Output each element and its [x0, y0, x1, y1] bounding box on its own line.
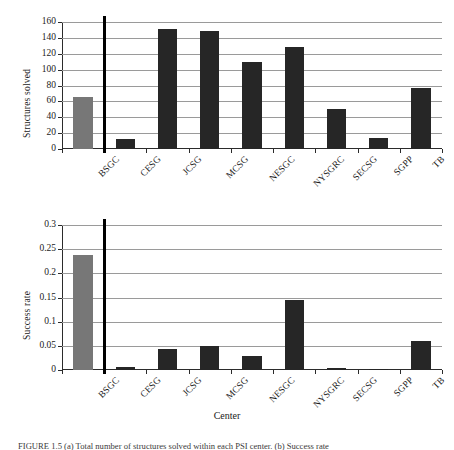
x-axis-tick	[358, 149, 359, 153]
x-axis-tick	[442, 149, 443, 153]
y-axis-tick-label: 40	[47, 113, 57, 123]
x-axis-tick	[189, 370, 190, 374]
bar-mcsg	[200, 31, 219, 149]
y-axis-tick-label: 80	[47, 81, 57, 91]
gridline	[62, 273, 442, 274]
x-axis-label-tb: TB	[430, 375, 446, 391]
chart-success-rate: Success rate 00.050.10.150.20.250.3 Cent…	[0, 205, 454, 420]
x-axis-tick	[315, 370, 316, 374]
y-axis-tick-label: 120	[42, 49, 56, 59]
figure-container: Structures solved 020406080100120140160 …	[0, 0, 454, 450]
y-axis-tick	[58, 225, 62, 226]
y-axis-tick	[58, 249, 62, 250]
gridline	[62, 54, 442, 55]
x-axis-label-sgpp: SGPP	[391, 375, 414, 398]
x-axis-tick	[315, 149, 316, 153]
bar-mcsg	[200, 346, 219, 370]
x-axis-tick	[62, 370, 63, 374]
y-axis-tick	[58, 133, 62, 134]
bar-bsgc	[73, 255, 92, 370]
bar-jcsg	[158, 349, 177, 370]
x-axis-tick	[231, 370, 232, 374]
x-axis-label-jcsg: JCSG	[180, 375, 203, 398]
x-axis-label-bsgc: BSGC	[96, 375, 121, 400]
center-group-separator	[103, 219, 106, 374]
bar-bsgc	[73, 97, 92, 149]
y-axis-tick	[58, 273, 62, 274]
bar-nesgc	[242, 356, 261, 371]
x-axis-label-sgpp: SGPP	[391, 154, 414, 177]
center-group-separator	[103, 16, 106, 153]
gridline	[62, 322, 442, 323]
y-axis-tick	[58, 70, 62, 71]
x-axis-label-cesg: CESG	[139, 154, 164, 179]
y-axis-tick-label: 140	[42, 33, 56, 43]
x-axis-tick	[146, 149, 147, 153]
x-axis-tick	[231, 149, 232, 153]
x-axis-label-nesgc: NESGC	[267, 154, 296, 183]
bar-tb	[411, 88, 430, 149]
figure-caption: FIGURE 1.5 (a) Total number of structure…	[18, 441, 446, 450]
gridline	[62, 249, 442, 250]
x-axis-tick	[442, 370, 443, 374]
x-axis-label-secsg: SECSG	[351, 154, 379, 182]
y-axis-tick-label: 0.2	[44, 269, 56, 279]
plot-area-top: 020406080100120140160	[62, 22, 442, 149]
y-axis-tick-label: 100	[42, 65, 56, 75]
y-axis-tick-label: 0.1	[44, 317, 56, 327]
y-axis-tick-label: 60	[47, 97, 57, 107]
bar-tb	[411, 341, 430, 370]
y-axis-tick	[58, 117, 62, 118]
chart-structures-solved: Structures solved 020406080100120140160 …	[0, 0, 454, 205]
x-axis-tick	[400, 370, 401, 374]
y-axis-tick	[58, 38, 62, 39]
x-axis-tick	[273, 370, 274, 374]
y-axis-title-top: Structures solved	[22, 38, 32, 138]
gridline	[62, 38, 442, 39]
x-axis-label-mcsg: MCSG	[224, 375, 250, 401]
y-axis-tick-label: 0.25	[39, 244, 56, 254]
y-axis-tick-label: 0	[51, 365, 56, 375]
x-axis-tick	[62, 149, 63, 153]
x-axis-label-nysgrc: NYSGRC	[312, 154, 347, 189]
x-axis-tick	[358, 370, 359, 374]
x-axis-label-nesgc: NESGC	[267, 375, 296, 404]
y-axis-tick	[58, 298, 62, 299]
y-axis-tick	[58, 86, 62, 87]
x-axis-label-mcsg: MCSG	[224, 154, 250, 180]
plot-area-bottom: 00.050.10.150.20.250.3	[62, 225, 442, 370]
bar-secsg	[327, 109, 346, 149]
x-axis-tick	[273, 149, 274, 153]
x-axis-label-tb: TB	[430, 154, 446, 170]
gridline	[62, 346, 442, 347]
y-axis-tick-label: 0.3	[44, 220, 56, 230]
y-axis-tick-label: 0.05	[39, 341, 56, 351]
x-axis-label-bsgc: BSGC	[96, 154, 121, 179]
bar-jcsg	[158, 29, 177, 149]
bar-cesg	[116, 139, 135, 149]
bar-nesgc	[242, 62, 261, 149]
y-axis-tick-label: 0	[51, 144, 56, 154]
y-axis-tick	[58, 54, 62, 55]
y-axis-tick	[58, 322, 62, 323]
x-axis-tick	[146, 370, 147, 374]
bar-secsg	[327, 368, 346, 370]
x-axis-label-jcsg: JCSG	[180, 154, 203, 177]
y-axis-tick	[58, 346, 62, 347]
y-axis-tick-label: 160	[42, 17, 56, 27]
bar-sgpp	[369, 138, 388, 149]
y-axis-tick	[58, 22, 62, 23]
x-axis-label-cesg: CESG	[139, 375, 164, 400]
x-axis-tick	[400, 149, 401, 153]
y-axis-title-bottom: Success rate	[22, 260, 32, 340]
bar-nysgrc	[285, 47, 304, 149]
y-axis-tick	[58, 101, 62, 102]
bar-cesg	[116, 367, 135, 370]
x-axis-tick	[189, 149, 190, 153]
gridline	[62, 225, 442, 226]
bar-sgpp	[369, 369, 388, 370]
x-axis-title: Center	[0, 410, 454, 421]
x-axis-label-nysgrc: NYSGRC	[312, 375, 347, 410]
gridline	[62, 298, 442, 299]
y-axis-tick-label: 20	[47, 128, 57, 138]
